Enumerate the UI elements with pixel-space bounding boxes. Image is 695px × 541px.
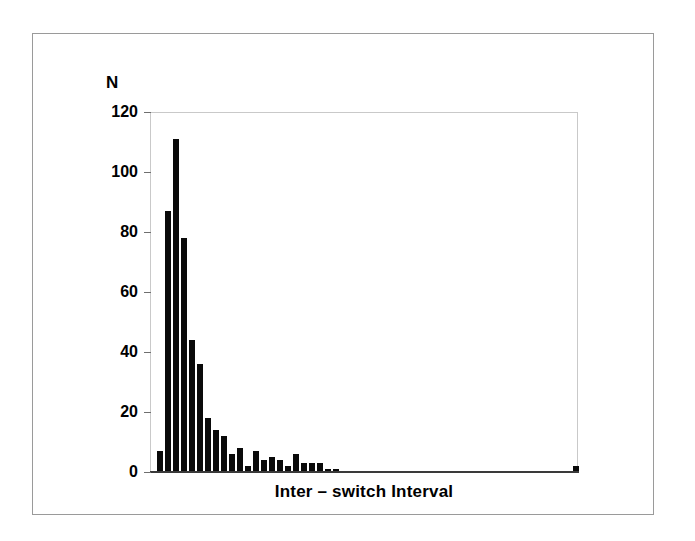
y-tick-mark — [144, 292, 151, 293]
y-tick-label: 20 — [94, 404, 138, 420]
histogram-bar — [156, 451, 163, 472]
histogram-bar — [292, 454, 299, 472]
bars-container — [150, 112, 578, 472]
histogram-bar — [236, 448, 243, 472]
histogram-bar — [252, 451, 259, 472]
y-tick-label: 40 — [94, 344, 138, 360]
y-tick-label: 60 — [94, 284, 138, 300]
histogram-bar — [180, 238, 187, 472]
y-tick-mark — [144, 172, 151, 173]
y-axis-tick-labels: 020406080100120 — [94, 0, 138, 541]
x-axis-title: Inter – switch Interval — [150, 482, 578, 502]
histogram-bar — [212, 430, 219, 472]
y-tick-label: 100 — [94, 164, 138, 180]
y-tick-label: 80 — [94, 224, 138, 240]
y-tick-mark — [144, 232, 151, 233]
histogram-bar — [204, 418, 211, 472]
y-tick-mark — [144, 112, 151, 113]
histogram-bar — [228, 454, 235, 472]
histogram-bar — [268, 457, 275, 472]
histogram-chart: N 020406080100120 Inter – switch Interva… — [0, 0, 695, 541]
x-axis-line — [150, 471, 579, 473]
y-tick-mark — [144, 352, 151, 353]
histogram-bar — [196, 364, 203, 472]
histogram-bar — [188, 340, 195, 472]
histogram-bar — [172, 139, 179, 472]
y-tick-label: 0 — [94, 464, 138, 480]
histogram-bar — [220, 436, 227, 472]
y-tick-mark — [144, 412, 151, 413]
y-tick-mark — [144, 472, 151, 473]
histogram-bar — [164, 211, 171, 472]
y-tick-label: 120 — [94, 104, 138, 120]
